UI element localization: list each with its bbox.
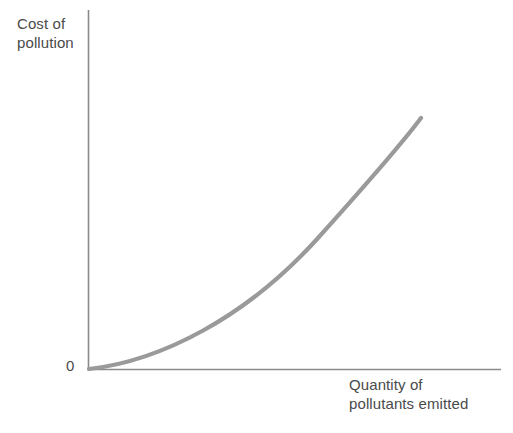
origin-label: 0 <box>66 356 74 375</box>
chart-plot-area <box>0 0 513 433</box>
chart-figure: Cost of pollution Quantity of pollutants… <box>0 0 513 433</box>
cost-of-pollution-curve <box>89 118 421 369</box>
x-axis-label: Quantity of pollutants emitted <box>349 375 468 413</box>
y-axis-label: Cost of pollution <box>17 14 74 52</box>
